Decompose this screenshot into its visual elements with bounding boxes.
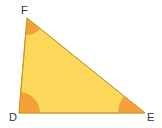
triangle-diagram: F D E bbox=[0, 0, 162, 128]
vertex-label-F: F bbox=[21, 4, 28, 16]
angle-mark-E bbox=[118, 86, 162, 128]
vertex-label-D: D bbox=[9, 111, 17, 123]
vertex-label-E: E bbox=[147, 111, 154, 123]
